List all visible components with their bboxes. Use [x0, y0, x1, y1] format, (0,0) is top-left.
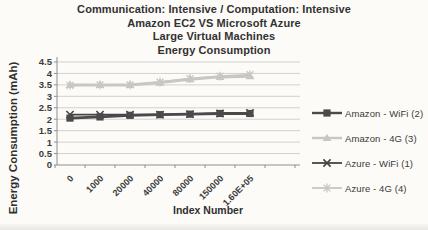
data-point: [216, 110, 223, 117]
legend-label-azure-4g: Azure - 4G (4): [345, 183, 407, 194]
y-tick-label: 4: [47, 68, 53, 79]
data-point: [96, 113, 103, 120]
data-point: [126, 112, 133, 119]
legend-marker-amazon-4g-icon: [311, 132, 343, 144]
data-point: [323, 109, 330, 116]
data-point: [156, 111, 163, 118]
y-tick-label: 2.5: [39, 102, 53, 113]
x-tick-label: 20000: [111, 173, 136, 198]
y-tick-label: 0: [47, 159, 52, 170]
legend-item-amazon-4g: Amazon - 4G (3): [311, 130, 423, 146]
x-tick-label: 80000: [171, 173, 196, 198]
y-tick-label: 0.5: [39, 148, 53, 159]
data-point: [186, 111, 193, 118]
series-amazon-4g-3: [66, 72, 255, 88]
y-tick-label: 3: [47, 91, 52, 102]
legend-marker-azure-4g-icon: [311, 182, 343, 194]
legend-label-amazon-4g: Amazon - 4G (3): [345, 133, 417, 144]
data-point: [66, 114, 73, 121]
data-point: [246, 110, 253, 117]
series-amazon-wifi-2: [66, 110, 253, 122]
legend-label-azure-wifi: Azure - WiFi (1): [345, 158, 413, 169]
scan-artifact: [0, 224, 428, 230]
x-tick-label: 40000: [141, 173, 166, 198]
x-tick-label: 1.60E+05: [221, 173, 256, 208]
y-axis-title: Energy Consumption (mAh): [7, 62, 19, 215]
chart-figure: Communication: Intensive / Computation: …: [0, 0, 428, 230]
legend-marker-amazon-wifi-icon: [311, 107, 343, 119]
y-tick-label: 3.5: [39, 79, 53, 90]
y-tick-label: 1: [47, 137, 53, 148]
legend-item-azure-wifi: Azure - WiFi (1): [311, 155, 423, 171]
legend: Amazon - WiFi (2) Amazon - 4G (3) Azure …: [311, 105, 423, 196]
x-tick-label: 150000: [197, 173, 225, 201]
legend-item-amazon-wifi: Amazon - WiFi (2): [311, 105, 423, 121]
x-tick-label: 1000: [84, 173, 105, 194]
legend-label-amazon-wifi: Amazon - WiFi (2): [345, 108, 423, 119]
y-tick-label: 4.5: [39, 56, 53, 67]
legend-item-azure-4g: Azure - 4G (4): [311, 180, 423, 196]
legend-marker-azure-wifi-icon: [311, 157, 343, 169]
y-tick-label: 2: [47, 114, 52, 125]
x-axis-title: Index Number: [100, 204, 316, 216]
y-tick-label: 1.5: [39, 125, 53, 136]
x-tick-label: 0: [65, 173, 76, 184]
